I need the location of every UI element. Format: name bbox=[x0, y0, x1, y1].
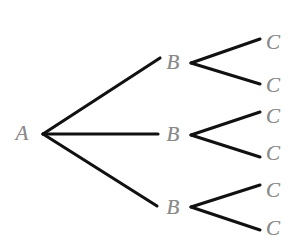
node-label-c-3: C bbox=[266, 106, 280, 127]
edge-a-to-b-bottom bbox=[43, 134, 157, 206]
node-label-c-4: C bbox=[266, 143, 280, 164]
node-label-b-top: B bbox=[167, 52, 180, 73]
edge-b-bottom-to-c-upper bbox=[191, 185, 260, 207]
node-label-a-root: A bbox=[16, 123, 29, 144]
edge-b-middle-to-c-upper bbox=[191, 112, 260, 135]
edge-group-branches bbox=[191, 39, 260, 230]
node-label-c-2: C bbox=[266, 75, 280, 96]
tree-diagram-canvas: A B B B C C C C C C bbox=[0, 0, 305, 236]
edge-b-top-to-c-lower bbox=[191, 63, 260, 84]
tree-edges-layer bbox=[0, 0, 305, 236]
edge-b-bottom-to-c-lower bbox=[191, 207, 260, 230]
edge-group-root bbox=[43, 58, 160, 206]
edge-b-top-to-c-upper bbox=[191, 39, 260, 63]
node-label-b-bottom: B bbox=[167, 197, 180, 218]
node-label-c-6: C bbox=[266, 218, 280, 237]
edge-a-to-b-top bbox=[43, 58, 160, 134]
node-label-c-1: C bbox=[266, 32, 280, 53]
node-label-b-middle: B bbox=[167, 124, 180, 145]
node-label-c-5: C bbox=[266, 180, 280, 201]
edge-b-middle-to-c-lower bbox=[191, 135, 260, 157]
